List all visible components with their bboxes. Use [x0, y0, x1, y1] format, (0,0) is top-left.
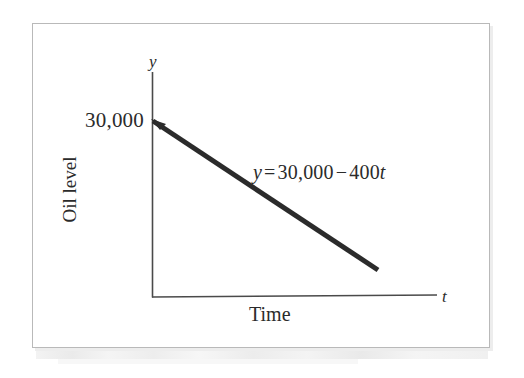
- equation-coefficient-value: 400: [349, 161, 380, 183]
- equation-lhs-y: y: [253, 161, 262, 183]
- figure-root: y t 30,000 Time Oil level y=30,000−400t: [0, 0, 524, 378]
- data-line: [153, 121, 378, 270]
- x-axis-title: Time: [249, 304, 291, 324]
- y-axis-title: Oil level: [60, 130, 79, 250]
- equation-minus-sign: −: [334, 161, 349, 183]
- y-intercept-tick-label: 30,000: [58, 110, 144, 131]
- t-axis-symbol-label: t: [442, 288, 447, 305]
- y-axis-symbol-label: y: [149, 53, 157, 70]
- equation-intercept-value: 30,000: [278, 161, 334, 183]
- equation-variable-t: t: [380, 161, 386, 183]
- equation-equals-sign: =: [262, 161, 277, 183]
- line-equation-annotation: y=30,000−400t: [253, 162, 386, 182]
- x-axis-line: [152, 295, 437, 297]
